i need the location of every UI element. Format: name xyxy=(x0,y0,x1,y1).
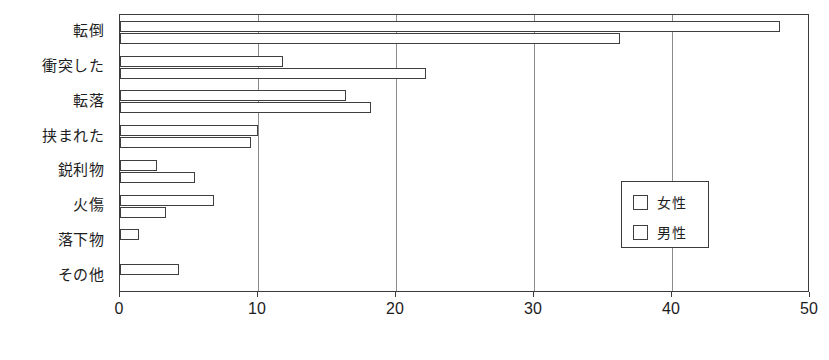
chart-legend: 女性男性 xyxy=(621,181,709,248)
x-tick-label-50: 50 xyxy=(800,300,818,318)
bar-火傷-男性 xyxy=(120,207,166,218)
category-label-落下物: 落下物 xyxy=(0,232,104,247)
bar-転落-女性 xyxy=(120,90,346,101)
legend-swatch-open-square xyxy=(633,195,648,210)
legend-label: 男性 xyxy=(657,226,686,240)
x-tick-label-40: 40 xyxy=(662,300,680,318)
bar-衝突した-男性 xyxy=(120,68,426,79)
bar-火傷-女性 xyxy=(120,195,214,206)
category-label-衝突した: 衝突した xyxy=(0,58,104,73)
category-label-挟まれた: 挟まれた xyxy=(0,128,104,143)
category-label-鋭利物: 鋭利物 xyxy=(0,162,104,177)
legend-item-男性: 男性 xyxy=(633,225,686,240)
category-label-火傷: 火傷 xyxy=(0,197,104,212)
gridline-40 xyxy=(672,15,673,291)
category-label-その他: その他 xyxy=(0,267,104,282)
bar-転落-男性 xyxy=(120,102,371,113)
x-axis: 01020304050 xyxy=(119,292,809,332)
bar-転倒-男性 xyxy=(120,33,620,44)
gridline-30 xyxy=(534,15,535,291)
bar-その他-女性 xyxy=(120,264,179,275)
legend-swatch-open-square xyxy=(633,225,648,240)
category-label-転落: 転落 xyxy=(0,93,104,108)
gridline-20 xyxy=(396,15,397,291)
x-tick-label-0: 0 xyxy=(115,300,124,318)
bar-衝突した-女性 xyxy=(120,56,283,67)
x-tick-label-20: 20 xyxy=(386,300,404,318)
bar-鋭利物-女性 xyxy=(120,160,157,171)
category-label-転倒: 転倒 xyxy=(0,23,104,38)
legend-label: 女性 xyxy=(657,196,686,210)
bar-転倒-女性 xyxy=(120,21,780,32)
x-tick-label-10: 10 xyxy=(248,300,266,318)
category-axis: 転倒衝突した転落挟まれた鋭利物火傷落下物その他 xyxy=(0,14,112,292)
x-tick-mark-30 xyxy=(533,292,534,297)
x-tick-mark-20 xyxy=(395,292,396,297)
bar-落下物-女性 xyxy=(120,229,139,240)
bar-挟まれた-女性 xyxy=(120,125,258,136)
bar-挟まれた-男性 xyxy=(120,137,251,148)
bar-chart: 転倒衝突した転落挟まれた鋭利物火傷落下物その他 01020304050 女性男性 xyxy=(0,0,829,360)
plot-area xyxy=(119,14,809,292)
x-tick-mark-10 xyxy=(257,292,258,297)
bar-鋭利物-男性 xyxy=(120,172,195,183)
x-tick-mark-40 xyxy=(671,292,672,297)
x-tick-mark-50 xyxy=(809,292,810,297)
x-tick-label-30: 30 xyxy=(524,300,542,318)
legend-item-女性: 女性 xyxy=(633,195,686,210)
x-tick-mark-0 xyxy=(119,292,120,297)
